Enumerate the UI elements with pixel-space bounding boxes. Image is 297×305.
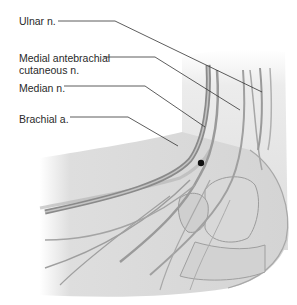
label-ulnar-nerve: Ulnar n. — [19, 15, 56, 27]
label-medial-antebrachial-line1: Medial antebrachial — [19, 52, 110, 64]
reference-dot — [198, 160, 204, 166]
label-medial-antebrachial-line2: cutaneous n. — [19, 64, 79, 76]
elbow-illustration — [0, 0, 297, 305]
label-median-nerve: Median n. — [19, 82, 65, 94]
label-brachial-artery: Brachial a. — [19, 113, 69, 125]
humerus-condyle — [205, 177, 259, 242]
ulna — [180, 242, 265, 280]
anatomy-figure: Ulnar n. Medial antebrachial cutaneous n… — [0, 0, 297, 305]
